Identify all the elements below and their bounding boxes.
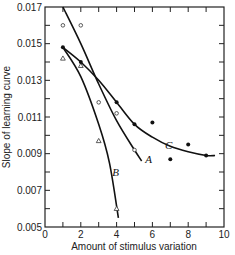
y-tick-label: 0.017	[17, 2, 42, 13]
filled-circle-marker	[168, 157, 172, 161]
curve-c	[63, 47, 215, 155]
triangle-marker	[61, 56, 66, 60]
y-tick-label: 0.011	[18, 112, 43, 123]
x-tick-label: 0	[42, 229, 48, 240]
y-tick-label: 0.005	[17, 222, 42, 233]
x-tick-label: 6	[150, 229, 156, 240]
x-tick-label: 10	[218, 229, 230, 240]
open-circle-marker	[61, 24, 65, 28]
curve-label-c: C	[165, 139, 173, 151]
tick-labels: 02468100.0050.0070.0090.0110.0130.0150.0…	[17, 2, 230, 241]
learning-curve-chart: 02468100.0050.0070.0090.0110.0130.0150.0…	[0, 0, 235, 255]
curve-label-a: A	[144, 153, 152, 165]
data-markers	[61, 24, 209, 211]
x-tick-label: 2	[78, 229, 84, 240]
plot-frame	[45, 7, 224, 227]
x-tick-label: 8	[185, 229, 191, 240]
filled-circle-marker	[150, 121, 154, 125]
fitted-curves	[63, 7, 215, 218]
curve-b	[63, 47, 118, 218]
y-tick-label: 0.015	[17, 38, 42, 49]
y-tick-label: 0.007	[17, 185, 42, 196]
y-tick-label: 0.013	[17, 75, 42, 86]
filled-circle-marker	[115, 100, 119, 104]
filled-circle-marker	[79, 60, 83, 64]
open-circle-marker	[79, 24, 83, 28]
open-circle-marker	[97, 101, 101, 105]
filled-circle-marker	[204, 154, 208, 158]
plot-border	[45, 7, 224, 227]
curve-label-b: B	[112, 166, 119, 178]
open-circle-marker	[115, 112, 119, 116]
open-circle-marker	[133, 148, 137, 152]
x-axis-title: Amount of stimulus variation	[71, 241, 197, 252]
filled-circle-marker	[61, 45, 65, 49]
y-axis-title: Slope of learning curve	[1, 65, 12, 168]
y-tick-label: 0.009	[17, 148, 42, 159]
filled-circle-marker	[133, 122, 137, 126]
axis-ticks	[45, 7, 224, 227]
curve-labels: ABC	[112, 139, 173, 179]
filled-circle-marker	[186, 143, 190, 147]
x-tick-label: 4	[114, 229, 120, 240]
triangle-marker	[114, 206, 119, 210]
triangle-marker	[96, 138, 101, 142]
